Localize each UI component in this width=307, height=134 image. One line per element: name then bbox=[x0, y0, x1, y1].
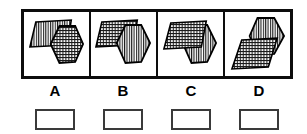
answer-boxes-row bbox=[21, 108, 293, 130]
option-labels-row: A B C D bbox=[21, 82, 293, 99]
option-label-a: A bbox=[21, 82, 89, 99]
panel-b-figure bbox=[91, 12, 156, 76]
question-figure: A B C D bbox=[0, 0, 307, 134]
answer-cell-d bbox=[225, 108, 293, 130]
option-label-b: B bbox=[89, 82, 157, 99]
option-panel-b[interactable] bbox=[91, 12, 158, 76]
option-panel-d[interactable] bbox=[225, 12, 290, 76]
option-panel-a[interactable] bbox=[24, 12, 91, 76]
option-label-d: D bbox=[225, 82, 293, 99]
option-panel-c[interactable] bbox=[158, 12, 225, 76]
answer-box-b[interactable] bbox=[103, 109, 143, 130]
shape-crosshatched-parallelogram bbox=[164, 21, 206, 49]
panel-c-figure bbox=[158, 12, 223, 76]
answer-cell-c bbox=[157, 108, 225, 130]
answer-cell-a bbox=[21, 108, 89, 130]
answer-box-d[interactable] bbox=[239, 109, 279, 130]
answer-box-a[interactable] bbox=[35, 109, 75, 130]
panel-a-figure bbox=[24, 12, 89, 76]
answer-cell-b bbox=[89, 108, 157, 130]
answer-options-panel-strip bbox=[21, 9, 293, 79]
option-label-c: C bbox=[157, 82, 225, 99]
answer-box-c[interactable] bbox=[171, 109, 211, 130]
panel-d-figure bbox=[225, 12, 290, 76]
shape-crosshatched-parallelogram bbox=[232, 38, 277, 69]
